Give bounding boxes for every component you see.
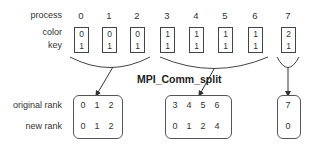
new-rank-g0-0: 0 xyxy=(77,121,89,131)
brace-group-1 xyxy=(160,57,268,69)
new-rank-g1-0: 0 xyxy=(169,121,181,131)
orig-rank-g0-0: 0 xyxy=(77,100,89,110)
orig-rank-g0-1: 1 xyxy=(91,100,103,110)
orig-rank-g1-0: 3 xyxy=(169,100,181,110)
new-rank-g1-3: 4 xyxy=(211,121,223,131)
new-rank-g2-0: 0 xyxy=(282,121,294,131)
orig-rank-g1-1: 4 xyxy=(183,100,195,110)
orig-rank-g1-2: 5 xyxy=(197,100,209,110)
diagram-title: MPI_Comm_split xyxy=(137,73,222,85)
brace-group-2 xyxy=(277,57,299,68)
orig-rank-g1-3: 6 xyxy=(211,100,223,110)
orig-rank-g0-2: 2 xyxy=(105,100,117,110)
new-rank-g0-2: 2 xyxy=(105,121,117,131)
original-rank-label: original rank xyxy=(2,100,62,110)
new-rank-label: new rank xyxy=(2,121,62,131)
arrow-group-0 xyxy=(97,67,113,94)
orig-rank-g2-0: 7 xyxy=(282,100,294,110)
new-rank-g1-1: 1 xyxy=(183,121,195,131)
new-rank-g0-1: 1 xyxy=(91,121,103,131)
brace-group-0 xyxy=(70,57,150,68)
new-rank-g1-2: 2 xyxy=(197,121,209,131)
